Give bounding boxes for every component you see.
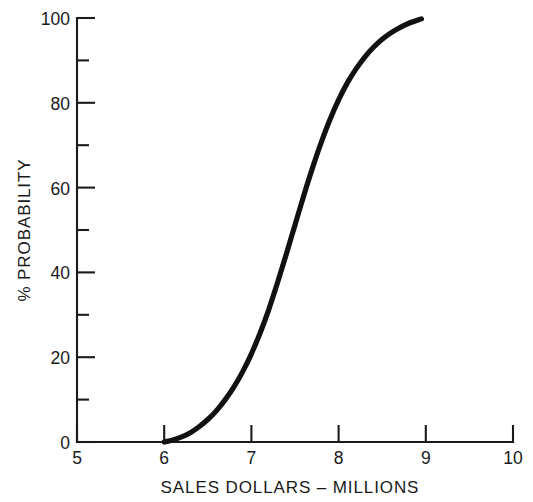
chart-background xyxy=(0,0,533,502)
x-tick-label-9: 9 xyxy=(421,448,431,468)
x-axis-title: SALES DOLLARS – MILLIONS xyxy=(161,478,420,497)
chart-container: 100 80 60 40 20 0 5 6 7 8 9 10 SALES DOL… xyxy=(0,0,533,502)
x-tick-label-8: 8 xyxy=(334,448,344,468)
y-tick-label-20: 20 xyxy=(51,348,71,368)
probability-curve-chart: 100 80 60 40 20 0 5 6 7 8 9 10 SALES DOL… xyxy=(0,0,533,502)
x-tick-label-6: 6 xyxy=(159,448,169,468)
y-axis-title: % PROBABILITY xyxy=(15,158,34,301)
x-tick-label-7: 7 xyxy=(247,448,257,468)
y-tick-label-100: 100 xyxy=(41,9,70,29)
x-tick-label-5: 5 xyxy=(72,448,82,468)
y-tick-label-40: 40 xyxy=(51,263,71,283)
y-tick-label-0: 0 xyxy=(60,433,70,453)
y-tick-label-80: 80 xyxy=(51,94,71,114)
x-tick-label-10: 10 xyxy=(503,448,523,468)
y-tick-label-60: 60 xyxy=(51,179,71,199)
